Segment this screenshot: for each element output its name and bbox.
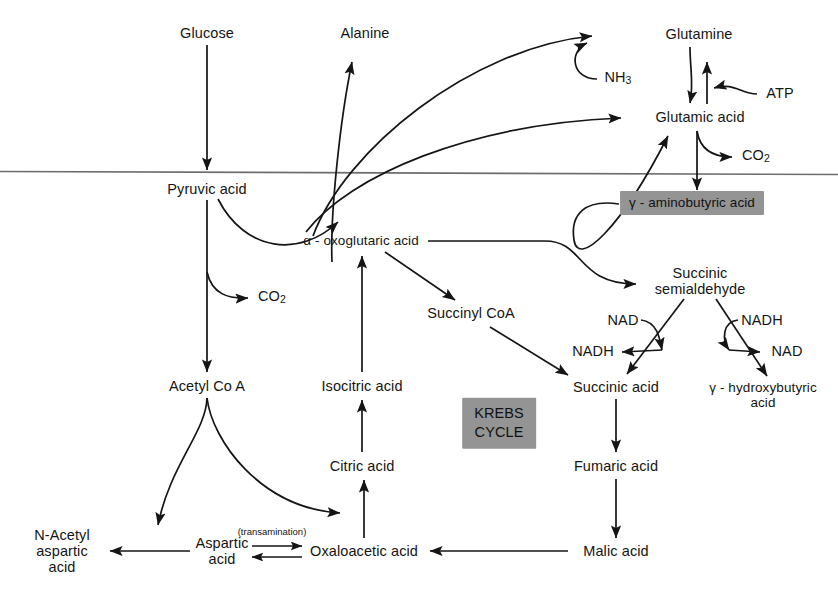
edge-glutamic-co2 <box>697 131 732 157</box>
node-co2-pyruvic: CO2 <box>258 288 286 306</box>
node-succinic-acid: Succinic acid <box>573 379 659 395</box>
node-n-acetyl-aspartic-acid: N-Acetyl aspartic acid <box>34 527 90 576</box>
label-transamination: (transamination) <box>238 527 307 538</box>
edge-acetylcoa-citric <box>207 398 340 513</box>
edge-pyruvic-alanine <box>332 62 352 262</box>
node-aspartic-acid: Aspartic acid <box>195 535 248 567</box>
nh3-formula: NH3 <box>604 69 631 85</box>
edge-oxoglutaric-glutamic <box>306 118 621 232</box>
node-nad-left: NAD <box>608 312 639 328</box>
node-succinic-semialdehyde: Succinic semialdehyde <box>655 265 746 297</box>
node-glutamic-acid: Glutamic acid <box>655 109 744 125</box>
node-hydroxybutyric-acid: γ - hydroxybutyric acid <box>709 380 817 410</box>
edge-nad-nadh-left <box>641 320 662 350</box>
node-glucose: Glucose <box>180 25 234 41</box>
node-succinyl-coa: Succinyl CoA <box>427 305 514 321</box>
node-glutamine: Glutamine <box>666 26 733 42</box>
node-oxaloacetic-acid: Oxaloacetic acid <box>310 543 418 559</box>
node-gaba: γ - aminobutyric acid <box>620 191 764 215</box>
node-co2-glutamic: CO2 <box>742 147 770 165</box>
node-citric-acid: Citric acid <box>330 458 395 474</box>
node-nadh-right: NADH <box>741 312 783 328</box>
edge-nad-right-terminus <box>729 350 760 352</box>
node-atp: ATP <box>766 85 793 101</box>
pathway-diagram: Glucose Alanine Glutamine NH3 ATP Glutam… <box>0 0 838 596</box>
node-nad-right: NAD <box>772 343 803 359</box>
edge-acetylcoa-aspartic <box>158 398 207 525</box>
node-alanine: Alanine <box>340 25 389 41</box>
node-nh3: NH3 <box>604 69 631 87</box>
node-pyruvic-acid: Pyruvic acid <box>167 181 246 197</box>
node-malic-acid: Malic acid <box>583 543 648 559</box>
node-acetyl-coa: Acetyl Co A <box>169 378 245 394</box>
node-fumaric-acid: Fumaric acid <box>574 458 658 474</box>
edge-pyruvic-co2 <box>207 272 248 298</box>
node-oxoglutaric-acid: α - oxoglutaric acid <box>303 233 419 248</box>
node-isocitric-acid: Isocitric acid <box>321 378 402 394</box>
node-nadh-left: NADH <box>572 343 614 359</box>
edge-succinylcoa-succinic <box>490 327 568 375</box>
edge-atp-glutamine <box>714 86 757 94</box>
edge-oxoglutaric-semialdehyde <box>428 241 636 284</box>
node-krebs-cycle: KREBS CYCLE <box>462 398 536 449</box>
edge-nh3-glutamine <box>575 43 597 79</box>
edge-nadh-left-terminus <box>622 350 662 352</box>
edge-glutamine-glutamic <box>690 47 692 103</box>
membrane-line <box>0 172 838 175</box>
edge-semialdehyde-succinic <box>627 299 684 374</box>
edge-pyruvic-glutamine <box>313 36 592 236</box>
edge-nadh-nad-right <box>725 320 738 350</box>
edge-oxoglutaric-succinylcoa <box>385 252 455 300</box>
pathway-edges <box>0 0 838 596</box>
